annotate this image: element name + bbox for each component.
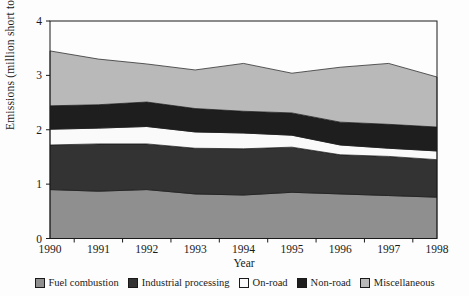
x-tick-label: 1994 [224, 243, 264, 255]
legend-label: Fuel combustion [49, 277, 119, 288]
legend-swatch-non-road [297, 278, 307, 288]
legend-item-industrial-processing: Industrial processing [128, 277, 230, 288]
series-band-fuel-combustion [50, 190, 437, 239]
legend-label: On-road [253, 277, 288, 288]
x-tick-label: 1991 [78, 243, 118, 255]
y-tick-label: 4 [20, 15, 42, 27]
legend-item-miscellaneous: Miscellaneous [360, 277, 435, 288]
y-tick-label: 1 [20, 178, 42, 190]
x-tick-label: 1998 [417, 243, 457, 255]
x-tick-label: 1992 [127, 243, 167, 255]
y-tick-label: 2 [20, 124, 42, 136]
emissions-stacked-area-figure: Emissions (million short tons) 01234 199… [0, 0, 469, 296]
x-tick-label: 1993 [175, 243, 215, 255]
x-tick-label: 1990 [30, 243, 70, 255]
legend-item-on-road: On-road [239, 277, 288, 288]
x-tick-label: 1997 [369, 243, 409, 255]
legend-label: Industrial processing [142, 277, 230, 288]
x-tick-label: 1995 [272, 243, 312, 255]
y-axis-title: Emissions (million short tons) [4, 0, 16, 130]
x-tick-label: 1996 [320, 243, 360, 255]
legend-label: Non-road [311, 277, 351, 288]
legend-swatch-fuel-combustion [35, 278, 45, 288]
y-tick-label: 3 [20, 69, 42, 81]
x-axis-title: Year [50, 257, 438, 269]
legend-swatch-miscellaneous [360, 278, 370, 288]
legend-label: Miscellaneous [374, 277, 435, 288]
legend-item-non-road: Non-road [297, 277, 351, 288]
legend-swatch-on-road [239, 278, 249, 288]
legend-item-fuel-combustion: Fuel combustion [35, 277, 119, 288]
legend-swatch-industrial-processing [128, 278, 138, 288]
legend: Fuel combustionIndustrial processingOn-r… [0, 277, 469, 288]
